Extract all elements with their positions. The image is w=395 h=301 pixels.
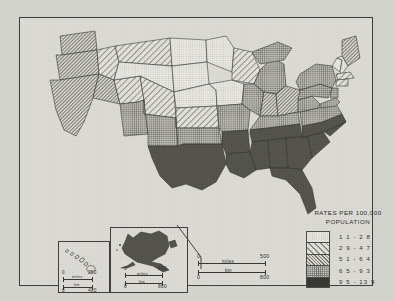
legend-swatch-class5 [306,277,330,288]
legend-row: 5 1 - 6 4 [306,254,390,265]
legend: RATES PER 100,000 POPULATION 1 1 - 2 8 2… [306,209,390,288]
legend-label-class1: 1 1 - 2 8 [339,234,371,240]
alaska-scale-km-unit: km [139,279,145,284]
scale-km-unit: km [225,268,232,273]
hawaii-scale-km-unit: km [74,283,80,287]
alaska-scale-km-start: 0 [124,284,127,289]
legend-title-line1: RATES PER 100,000 [314,209,381,216]
hawaii-scale-km-end: 400 [88,288,97,293]
legend-swatch-class4 [306,265,330,276]
alaska-scale-miles-unit: miles [137,271,148,276]
legend-label-class4: 6 5 - 9 3 [339,268,371,274]
legend-label-class3: 5 1 - 6 4 [339,256,371,262]
hawaii-scale-km-start: 0 [62,288,65,293]
map-frame: RATES PER 100,000 POPULATION 1 1 - 2 8 2… [19,17,373,286]
hawaii-scale-bar: miles 0 250 km 0 400 [63,276,107,291]
hawaii-scale-miles-start: 0 [62,270,65,275]
legend-swatch-class3 [306,254,330,265]
scale-km-end: 800 [260,274,270,280]
legend-swatch-class2 [306,242,330,253]
legend-swatch-class1 [306,231,330,242]
legend-label-class5: 9 5 - 13 9 [339,279,375,285]
legend-row: 9 5 - 13 9 [306,277,390,288]
hawaii-scale-miles-end: 250 [88,270,97,275]
scale-miles-end: 500 [260,253,270,259]
legend-label-class2: 2 9 - 4 7 [339,245,371,251]
legend-row: 6 5 - 9 3 [306,265,390,276]
alaska-scale-miles-start: 0 [124,266,127,271]
hawaii-scale-miles-unit: miles [72,275,82,279]
legend-row: 1 1 - 2 8 [306,231,390,242]
hawaii-inset: miles 0 250 km 0 400 [58,241,110,293]
legend-title: RATES PER 100,000 POPULATION [306,209,390,226]
alaska-scale-bar: miles 0 500 km 0 800 [125,272,177,287]
alaska-scale-miles-end: 500 [158,266,167,271]
alaska-scale-km-end: 800 [158,284,167,289]
legend-row: 2 9 - 4 7 [306,242,390,253]
scale-miles-unit: miles [222,259,234,264]
map-figure: RATES PER 100,000 POPULATION 1 1 - 2 8 2… [0,0,395,301]
legend-title-line2: POPULATION [326,218,370,225]
scale-km-start: 0 [197,274,200,280]
alaska-leader-line [175,223,215,273]
